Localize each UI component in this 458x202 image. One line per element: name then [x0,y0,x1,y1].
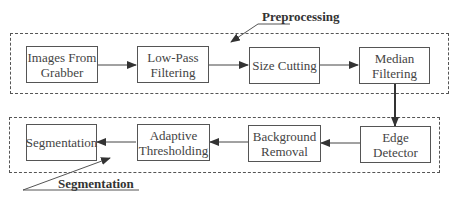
node-segmentation: Segmentation [26,124,97,161]
node-median-filtering: Median Filtering [359,47,430,84]
node-size-cutting: Size Cutting [249,47,320,84]
node-low-pass-filtering: Low-Pass Filtering [137,46,209,83]
node-background-removal: Background Removal [248,125,321,162]
segmentation-label: Segmentation [58,176,134,192]
preprocessing-label: Preprocessing [262,9,340,25]
node-images-from-grabber: Images From Grabber [26,46,98,83]
node-adaptive-thresholding: Adaptive Thresholding [137,124,210,161]
connector-arrows [0,0,458,202]
node-edge-detector: Edge Detector [360,126,431,163]
